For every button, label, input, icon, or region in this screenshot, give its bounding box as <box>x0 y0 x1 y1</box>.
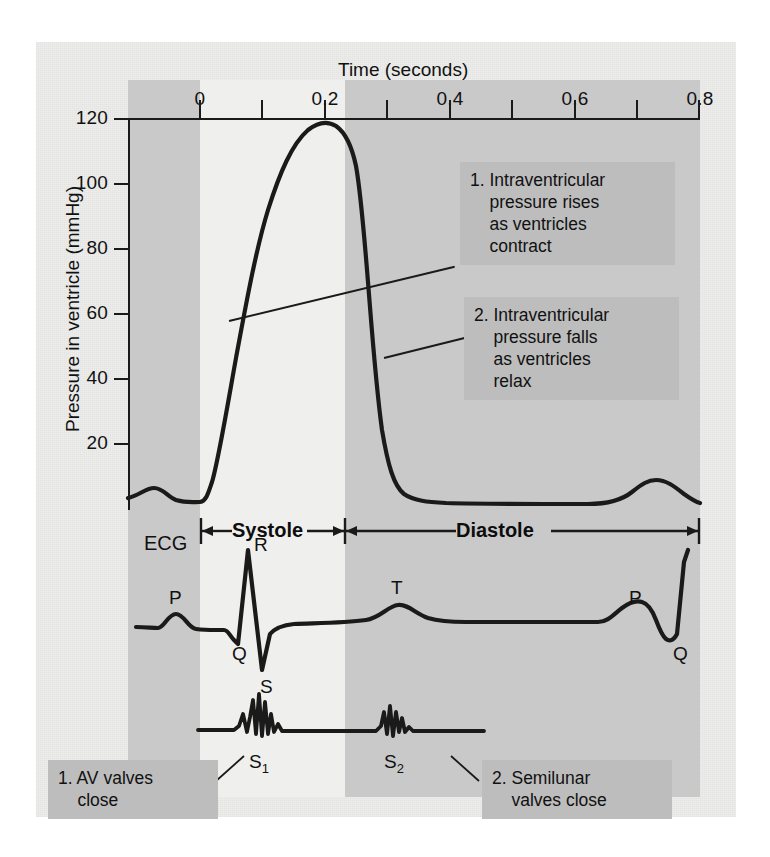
callout-annotation-4: 2. Semilunar valves close <box>482 760 672 819</box>
bottom-leaders-svg <box>36 42 736 817</box>
figure-panel: Time (seconds) 0 0.2 0.4 0.6 0.8 Pressur… <box>36 42 736 817</box>
callout-4-leader <box>451 756 479 781</box>
callout-annotation-3: 1. AV valves close <box>48 760 218 819</box>
callout-3-leader <box>216 756 244 781</box>
